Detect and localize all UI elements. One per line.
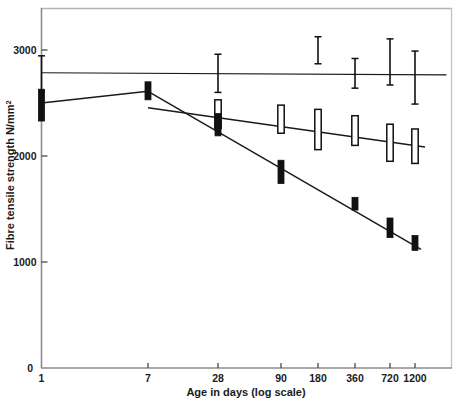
error-bar-open bbox=[387, 124, 393, 161]
origin-zero-label: 0 bbox=[27, 362, 33, 374]
error-bar-solid bbox=[145, 82, 151, 100]
error-bar-open bbox=[278, 105, 284, 133]
y-tick-label: 2000 bbox=[13, 150, 37, 162]
y-axis-title: Fibre tensile strength N/mm2 bbox=[4, 100, 16, 250]
x-tick-label: 360 bbox=[346, 372, 364, 384]
y-axis-title-text: Fibre tensile strength N/mm2 bbox=[4, 100, 16, 250]
error-bar-solid bbox=[278, 160, 284, 183]
error-bar-solid bbox=[387, 218, 393, 238]
error-bar-solid bbox=[215, 114, 221, 136]
x-tick-label: 180 bbox=[309, 372, 327, 384]
y-tick-label: 3000 bbox=[13, 44, 37, 56]
x-tick-label: 1 bbox=[39, 372, 45, 384]
error-bar-solid bbox=[352, 197, 358, 210]
x-axis-title-text: Age in days (log scale) bbox=[186, 386, 306, 398]
x-tick-label: 7 bbox=[145, 372, 151, 384]
error-bar-open bbox=[352, 116, 358, 146]
error-bar-open bbox=[412, 129, 418, 163]
x-tick-label: 1200 bbox=[403, 372, 427, 384]
chart-background bbox=[0, 0, 466, 410]
x-tick-label: 28 bbox=[212, 372, 224, 384]
error-bar-open bbox=[315, 109, 321, 149]
fibre-tensile-strength-chart: 100020003000 1728901803607201200 Fibre t… bbox=[0, 0, 466, 410]
x-tick-label: 90 bbox=[275, 372, 287, 384]
x-tick-label: 720 bbox=[381, 372, 399, 384]
error-bar-solid bbox=[412, 236, 418, 251]
y-tick-label: 1000 bbox=[13, 256, 37, 268]
chart-container: 100020003000 1728901803607201200 Fibre t… bbox=[0, 0, 466, 410]
error-bar-solid bbox=[39, 89, 45, 121]
